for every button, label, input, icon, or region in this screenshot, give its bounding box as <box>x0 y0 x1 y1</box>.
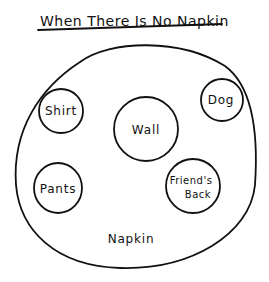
label-dog: Dog <box>208 93 235 107</box>
label-napkin: Napkin <box>108 232 155 246</box>
label-shirt: Shirt <box>45 104 77 118</box>
circle-pants: Pants <box>34 163 82 213</box>
label-wall: Wall <box>132 123 160 137</box>
circle-friends-back: Friend's Back <box>166 159 220 213</box>
label-pants: Pants <box>40 182 77 196</box>
label-friends-back-line1: Friend's <box>170 175 213 186</box>
label-friends-back-line2: Back <box>185 189 211 200</box>
circle-wall: Wall <box>114 97 178 161</box>
circle-dog: Dog <box>201 79 243 121</box>
circle-shirt: Shirt <box>39 89 83 133</box>
napkin-diagram: When There Is No Napkin Shirt Wall Dog P… <box>0 0 269 282</box>
